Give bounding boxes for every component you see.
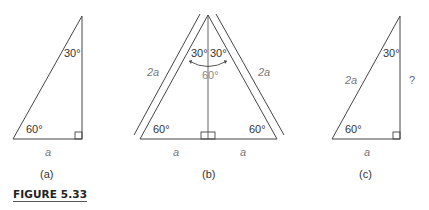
left-side-label-b: 2a: [146, 66, 159, 78]
right-angle-marker-c: [393, 132, 400, 139]
left-base-label-b: a: [173, 146, 179, 158]
angle-30-a: 30°: [64, 47, 81, 59]
figure-title: FIGURE 5.33: [13, 188, 87, 202]
caption-c: (c): [359, 168, 372, 180]
unknown-side-label-c: ?: [409, 74, 415, 86]
base-label-c: a: [364, 146, 370, 158]
right-side-label-b: 2a: [257, 66, 270, 78]
right-base-label-b: a: [240, 146, 246, 158]
panel-b: 30° 30° 60° 2a 2a 60° 60° a a (b): [134, 14, 284, 180]
caption-b: (b): [202, 168, 215, 180]
angle-60-a: 60°: [26, 123, 43, 135]
angle-60-c: 60°: [345, 123, 362, 135]
hypotenuse-label-c: 2a: [344, 74, 357, 86]
figure-canvas: 30° 60° a (a) 30° 30° 60° 2a 2a 60° 60° …: [0, 0, 429, 210]
angle-60-combined-b: 60°: [202, 69, 219, 81]
angle-60-left-b: 60°: [153, 123, 170, 135]
right-angle-marker-a: [75, 132, 82, 139]
panel-a: 30° 60° a (a): [13, 16, 82, 180]
left-side-bracket: [134, 14, 200, 135]
triangle-c: [332, 16, 400, 139]
angle-30-right-b: 30°: [210, 47, 227, 59]
base-label-a: a: [45, 146, 51, 158]
angle-60-right-b: 60°: [249, 123, 266, 135]
angle-30-left-b: 30°: [191, 47, 208, 59]
angle-30-c: 30°: [383, 47, 400, 59]
panel-c: 30° 2a ? 60° a (c): [332, 16, 415, 180]
caption-a: (a): [40, 168, 53, 180]
triangle-a: [13, 16, 82, 139]
right-side-bracket: [216, 14, 284, 135]
